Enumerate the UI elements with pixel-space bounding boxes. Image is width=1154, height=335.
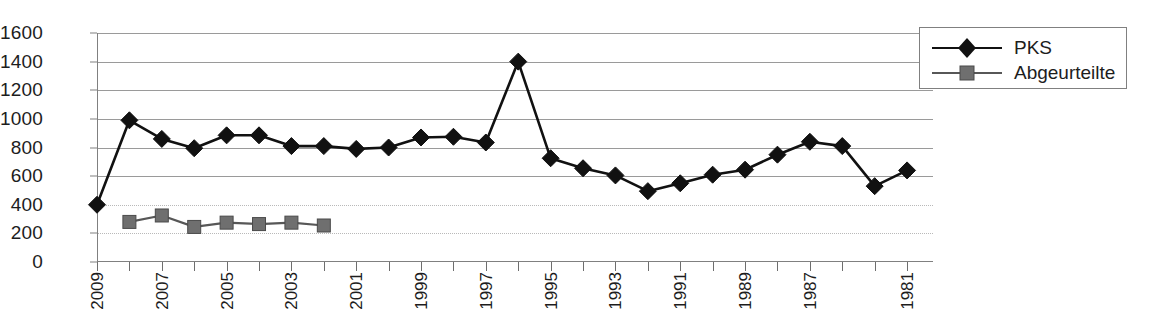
y-tick-label-0: 0 (32, 251, 43, 273)
x-tick-label-1991: 1991 (671, 272, 691, 310)
data-point-abgeurteilte-3[interactable] (220, 216, 233, 229)
legend-label-abgeurteilte: Abgeurteilte (1014, 62, 1115, 84)
series-line-pks (97, 62, 907, 205)
chart-root: 16001400120010008006004002000 2009200720… (0, 0, 1154, 335)
x-tick-label-2007: 2007 (153, 272, 173, 310)
x-tick-1986 (842, 262, 843, 271)
data-point-pks-2[interactable] (153, 130, 170, 147)
x-tick-label-1993: 1993 (606, 272, 626, 310)
series-layer (97, 33, 933, 262)
x-tick-label-2003: 2003 (282, 272, 302, 310)
x-tick-2006 (194, 262, 195, 271)
y-tick-mark-0 (90, 262, 97, 263)
y-tick-mark-1600 (90, 33, 97, 34)
chart-legend: PKS Abgeurteilte (919, 27, 1127, 89)
x-tick-label-1989: 1989 (736, 272, 756, 310)
x-tick-2007 (162, 262, 163, 271)
x-tick-2009 (97, 262, 98, 271)
data-point-pks-5[interactable] (251, 127, 268, 144)
y-axis: 16001400120010008006004002000 (0, 0, 95, 280)
y-tick-label-800: 800 (11, 137, 43, 159)
x-tick-1993 (615, 262, 616, 271)
data-point-pks-14[interactable] (542, 150, 559, 167)
x-tick-label-2005: 2005 (218, 272, 238, 310)
legend-square-icon (930, 63, 1004, 83)
data-point-pks-12[interactable] (477, 134, 494, 151)
x-tick-1992 (648, 262, 649, 271)
data-point-pks-25[interactable] (899, 162, 916, 179)
x-tick-2000 (389, 262, 390, 271)
y-tick-mark-1200 (90, 90, 97, 91)
data-point-pks-21[interactable] (769, 146, 786, 163)
data-point-pks-19[interactable] (704, 166, 721, 183)
y-tick-mark-200 (90, 233, 97, 234)
data-point-abgeurteilte-0[interactable] (123, 215, 136, 228)
data-point-pks-13[interactable] (510, 53, 527, 70)
data-point-pks-22[interactable] (801, 133, 818, 150)
legend-item-abgeurteilte[interactable]: Abgeurteilte (930, 60, 1116, 85)
data-point-pks-9[interactable] (380, 139, 397, 156)
x-tick-label-1995: 1995 (542, 272, 562, 310)
data-point-abgeurteilte-1[interactable] (155, 209, 168, 222)
y-tick-mark-1000 (90, 118, 97, 119)
data-point-pks-4[interactable] (218, 127, 235, 144)
x-tick-1989 (745, 262, 746, 271)
x-tick-label-1999: 1999 (412, 272, 432, 310)
data-point-pks-17[interactable] (639, 183, 656, 200)
data-point-pks-10[interactable] (413, 129, 430, 146)
y-tick-mark-1400 (90, 61, 97, 62)
x-tick-1997 (486, 262, 487, 271)
data-point-abgeurteilte-5[interactable] (285, 216, 298, 229)
x-tick-label-2001: 2001 (347, 272, 367, 310)
data-point-pks-18[interactable] (672, 175, 689, 192)
legend-item-pks[interactable]: PKS (930, 35, 1116, 60)
legend-diamond-icon (930, 38, 1004, 58)
x-tick-1991 (680, 262, 681, 271)
x-tick-1999 (421, 262, 422, 271)
x-tick-label-2009: 2009 (88, 272, 108, 310)
data-point-pks-7[interactable] (315, 138, 332, 155)
x-tick-1987 (810, 262, 811, 271)
data-point-abgeurteilte-6[interactable] (317, 219, 330, 232)
y-tick-mark-600 (90, 176, 97, 177)
x-axis-labels: 2009200720052003200119991997199519931991… (97, 272, 933, 332)
y-tick-label-1600: 1600 (0, 22, 43, 44)
y-tick-label-600: 600 (11, 165, 43, 187)
x-tick-1990 (713, 262, 714, 271)
x-tick-label-1981: 1981 (898, 272, 918, 310)
data-point-abgeurteilte-4[interactable] (253, 218, 266, 231)
data-point-pks-1[interactable] (121, 112, 138, 129)
x-tick-2004 (259, 262, 260, 271)
y-tick-label-1400: 1400 (0, 51, 43, 73)
x-tick-1981 (907, 262, 908, 271)
x-tick-label-1987: 1987 (801, 272, 821, 310)
x-tick-1995 (551, 262, 552, 271)
x-tick-1998 (453, 262, 454, 271)
data-point-pks-20[interactable] (737, 161, 754, 178)
x-tick-1994 (583, 262, 584, 271)
x-axis-ticks (97, 262, 933, 271)
data-point-pks-8[interactable] (348, 140, 365, 157)
y-tick-mark-800 (90, 147, 97, 148)
x-tick-2001 (356, 262, 357, 271)
x-tick-1988 (777, 262, 778, 271)
x-tick-label-1997: 1997 (477, 272, 497, 310)
x-tick-1985 (875, 262, 876, 271)
data-point-pks-3[interactable] (186, 140, 203, 157)
data-point-pks-16[interactable] (607, 167, 624, 184)
data-point-pks-15[interactable] (575, 160, 592, 177)
x-tick-2002 (324, 262, 325, 271)
x-tick-2005 (227, 262, 228, 271)
x-tick-2008 (129, 262, 130, 271)
y-tick-label-400: 400 (11, 194, 43, 216)
data-point-pks-11[interactable] (445, 128, 462, 145)
y-tick-label-1200: 1200 (0, 79, 43, 101)
y-tick-label-1000: 1000 (0, 108, 43, 130)
y-tick-label-200: 200 (11, 222, 43, 244)
data-point-pks-6[interactable] (283, 138, 300, 155)
x-tick-1996 (518, 262, 519, 271)
legend-label-pks: PKS (1014, 37, 1052, 59)
data-point-abgeurteilte-2[interactable] (188, 220, 201, 233)
x-tick-2003 (291, 262, 292, 271)
